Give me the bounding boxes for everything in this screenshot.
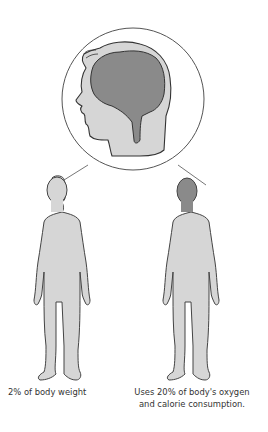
- caption-left: 2% of body weight: [8, 386, 98, 398]
- caption-right-line2: and calorie consumption.: [128, 398, 256, 410]
- callout-circle: [62, 28, 204, 170]
- person-silhouette-icon: [163, 212, 219, 380]
- head-icon: [47, 177, 67, 203]
- left-figure: [34, 176, 90, 380]
- neck-icon: [181, 200, 193, 212]
- connector-line-left: [64, 165, 88, 180]
- caption-right: Uses 20% of body's oxygen and calorie co…: [128, 386, 256, 410]
- right-figure: [163, 178, 219, 380]
- brain-diagram: [0, 0, 268, 432]
- caption-right-line1: Uses 20% of body's oxygen: [128, 386, 256, 398]
- neck-icon: [51, 200, 63, 212]
